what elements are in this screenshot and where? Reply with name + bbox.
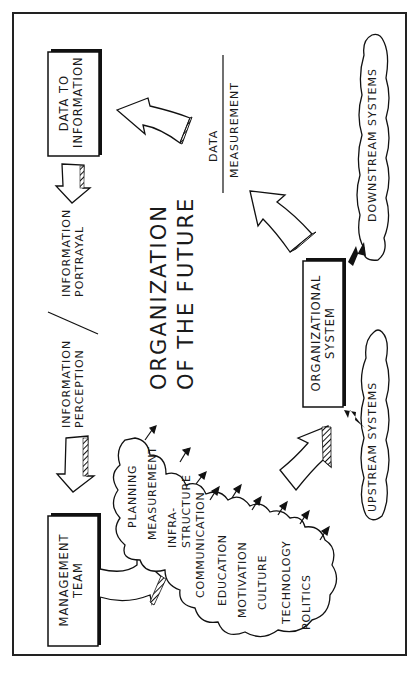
down-arrow-icon (56, 164, 90, 203)
solid-arrow-icon (348, 242, 366, 266)
curved-arrow-icon (117, 98, 192, 144)
factor-culture: CULTURE (256, 555, 269, 610)
information-perception-label: INFORMATION PERCEPTION (60, 340, 86, 428)
curved-arrow-icon (280, 426, 331, 490)
factor-technology: TECHNOLOGY (280, 540, 293, 624)
factor-politics: POLITICS (300, 574, 313, 630)
factor-motivation: MOTIVATION (236, 542, 249, 618)
factor-infrastructure-2: STRUCTURE (180, 474, 193, 548)
factor-measurement: MEASUREMENT (146, 446, 159, 540)
data-label: DATA (207, 130, 220, 162)
measurement-label: MEASUREMENT (228, 82, 241, 178)
downstream-systems-label: DOWNSTREAM SYSTEMS (366, 68, 379, 222)
management-team-label: MANAGEMENT TEAM (58, 522, 86, 638)
factor-communication: COMMUNICATION (194, 492, 207, 598)
data-to-information-label: DATA TO INFORMATION (58, 58, 86, 148)
factor-education: EDUCATION (216, 534, 229, 606)
down-arrow-icon (57, 436, 94, 492)
diagram-title: ORGANIZATION OF THE FUTURE (146, 197, 201, 390)
factor-planning: PLANNING (126, 465, 139, 528)
organizational-system-label: ORGANIZATIONAL SYSTEM (310, 266, 338, 400)
curved-arrow-icon (250, 191, 316, 252)
upstream-systems-label: UPSTREAM SYSTEMS (366, 382, 379, 512)
information-portrayal-label: INFORMATION PORTRAYAL (60, 209, 86, 297)
factor-infrastructure-1: INFRA- (166, 507, 179, 548)
divider-slash (48, 312, 98, 334)
